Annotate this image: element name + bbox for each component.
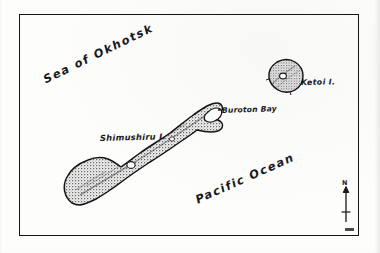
map-figure: Sea of Okhotsk Pacific Ocean Shimushiru … — [0, 0, 380, 253]
ketoi-crater-lake — [280, 73, 287, 79]
north-arrow: N — [337, 180, 355, 224]
label-buroton-bay: Buroton Bay — [222, 104, 277, 115]
north-arrow-letter: N — [342, 179, 347, 187]
label-shimushiru-island: Shimushiru I. — [100, 131, 166, 143]
map-canvas — [0, 0, 380, 253]
shimushiru-secondary-crater — [169, 137, 174, 141]
plate-mark — [345, 228, 354, 231]
label-ketoi-island: Ketoi I. — [301, 77, 336, 87]
buroton-bay-leader-dot — [218, 109, 220, 111]
ketoi-island-shape — [265, 55, 309, 97]
shimushiru-crater-lake — [127, 162, 135, 169]
